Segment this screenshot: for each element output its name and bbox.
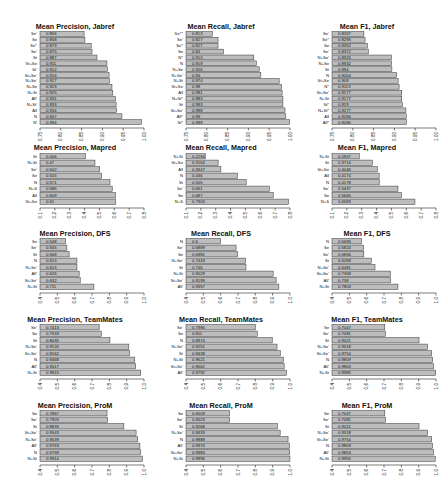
category-label: Se xyxy=(32,239,38,244)
value-label: 0.933 xyxy=(46,102,57,107)
category-label: All' xyxy=(32,443,38,448)
value-label: 0.7081 xyxy=(338,331,351,336)
category-label: Se' xyxy=(323,331,329,336)
value-label: 0.925 xyxy=(46,90,57,95)
category-label: Se' xyxy=(31,167,37,172)
category-label: N xyxy=(34,180,37,185)
category-label: N xyxy=(34,114,37,119)
value-label: 0.9983 xyxy=(192,450,205,455)
tick-label: 0.9 xyxy=(124,469,129,476)
value-label: 0.8372 xyxy=(338,49,351,54)
value-label: 0.9863 xyxy=(338,364,351,369)
tick-label: 0.8 xyxy=(434,212,439,219)
tick-label: 0.9 xyxy=(270,469,275,476)
value-label: 0.9639 xyxy=(46,437,59,442)
category-label: N+S xyxy=(321,199,329,204)
category-label: N+St xyxy=(320,456,330,461)
tick-label: 0.8 xyxy=(399,383,404,390)
value-label: 0.6981 xyxy=(192,252,205,257)
tick-label: 0.5 xyxy=(243,212,248,219)
category-label: St+Se' xyxy=(171,108,184,113)
tick-label: 0.6 xyxy=(218,469,223,476)
bar-chart-panel: Mean Recall, JabrefSe**0.813Se'0.827Se*0… xyxy=(148,18,294,147)
category-label: All xyxy=(178,167,183,172)
value-label: 0.84 xyxy=(192,49,201,54)
bar xyxy=(186,114,286,119)
category-label: N+Se' xyxy=(172,430,184,435)
category-label: N+Se' xyxy=(172,344,184,349)
value-label: 0.947 xyxy=(46,114,57,119)
category-label: All' xyxy=(178,370,184,375)
value-label: 0.9468 xyxy=(46,357,59,362)
category-label: N+St' xyxy=(27,102,37,107)
value-label: 0.711 xyxy=(46,284,57,289)
category-label: Se xyxy=(178,49,184,54)
value-label: 0.9021 xyxy=(338,338,351,343)
category-label: St+Se xyxy=(171,84,183,89)
tick-label: 0.6 xyxy=(72,469,77,476)
value-label: 0.6509 xyxy=(192,411,205,416)
tick-label: 0.2 xyxy=(52,212,57,219)
tick-label: 0.8 xyxy=(107,469,112,476)
category-label: N+Se' xyxy=(172,73,184,78)
value-label: 0.8352 xyxy=(338,43,351,48)
category-label: St xyxy=(325,424,330,429)
category-label: N+St xyxy=(28,370,38,375)
tick-label: 0.6 xyxy=(112,212,117,219)
value-label: 0.6481 xyxy=(338,265,351,270)
value-label: 0.5836 xyxy=(338,252,351,257)
value-label: 0.9113 xyxy=(338,84,351,89)
value-label: 0.6889 xyxy=(192,245,205,250)
tick-label: 0.6 xyxy=(218,383,223,390)
category-label: St+Se' xyxy=(25,430,38,435)
tick-label: 0.4 xyxy=(228,212,233,219)
tick-label: 0.9 xyxy=(124,383,129,390)
value-label: 0.9251 xyxy=(192,344,205,349)
category-label: Se* xyxy=(322,37,329,42)
value-label: 0.7995 xyxy=(192,325,205,330)
tick-label: 0.5 xyxy=(201,383,206,390)
category-label: St+Se' xyxy=(171,278,184,283)
tick-label: 0.3 xyxy=(67,212,72,219)
tick-label: 0.5 xyxy=(55,469,60,476)
tick-label: 0.6 xyxy=(218,297,223,304)
chart-plot: Se'0.7413Se0.7533St0.8035N+Se'0.9126St+S… xyxy=(2,312,148,398)
category-label: Se' xyxy=(323,186,329,191)
tick-label: 0.7 xyxy=(382,383,387,390)
category-label: All xyxy=(178,90,183,95)
category-label: Se xyxy=(178,411,184,416)
category-label: St+Se xyxy=(25,199,37,204)
value-label: 0.7903 xyxy=(192,199,205,204)
tick-label: 0.5 xyxy=(201,469,206,476)
value-label: 0.613 xyxy=(46,258,57,263)
category-label: N+Se xyxy=(318,61,329,66)
tick-label: 0.7 xyxy=(273,212,278,219)
category-label: All* xyxy=(177,114,184,119)
tick-label: 0.7 xyxy=(127,212,132,219)
value-label: 0.926 xyxy=(192,67,203,72)
category-label: St xyxy=(33,338,38,343)
category-label: N+St xyxy=(174,154,184,159)
category-label: St+Se' xyxy=(25,73,38,78)
tick-label: 1.0 xyxy=(142,383,147,390)
category-label: N xyxy=(180,61,183,66)
category-label: N+St* xyxy=(172,96,183,101)
category-label: Se** xyxy=(175,31,184,36)
category-label: All xyxy=(32,193,37,198)
value-label: 0.9277 xyxy=(338,108,351,113)
value-label: 0.2294 xyxy=(192,154,205,159)
value-label: 0.4046 xyxy=(338,167,351,172)
value-label: 0.7533 xyxy=(46,331,59,336)
value-label: 0.5824 xyxy=(338,245,351,250)
value-label: 0.858 xyxy=(46,37,57,42)
tick-label: 0.9 xyxy=(416,469,421,476)
value-label: 0.9754 xyxy=(338,437,351,442)
category-label: St xyxy=(325,160,330,165)
tick-label: 0.6 xyxy=(72,297,77,304)
category-label: N xyxy=(326,239,329,244)
value-label: 0.8839 xyxy=(46,424,59,429)
category-label: All xyxy=(32,108,37,113)
tick-label: 1.0 xyxy=(142,469,147,476)
category-label: Se xyxy=(324,245,330,250)
value-label: 0.8035 xyxy=(46,338,59,343)
